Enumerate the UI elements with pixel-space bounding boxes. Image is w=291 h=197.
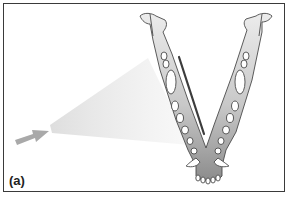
mandible-radiography-diagram	[0, 0, 291, 197]
beam-arrow-icon	[15, 130, 49, 145]
panel-label: (a)	[9, 173, 25, 188]
